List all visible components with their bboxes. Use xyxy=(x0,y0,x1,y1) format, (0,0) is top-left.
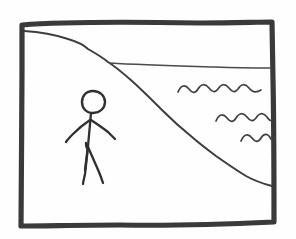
paper-background xyxy=(0,0,296,239)
sketch-canvas xyxy=(0,0,296,239)
sketch-drawing xyxy=(0,0,296,239)
